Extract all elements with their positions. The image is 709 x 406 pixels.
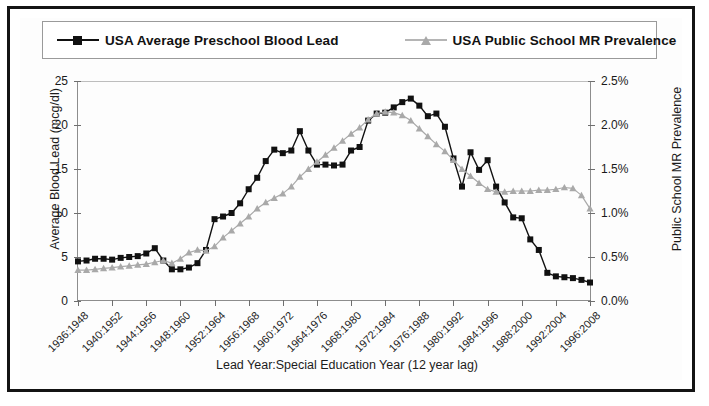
data-point-square — [297, 128, 303, 134]
data-point-triangle — [262, 199, 269, 205]
series-plot — [77, 81, 591, 301]
data-point-square — [433, 111, 439, 117]
y-axis-right-tick-label: 1.0% — [601, 206, 651, 220]
data-point-square — [135, 253, 141, 259]
data-point-square — [485, 157, 491, 163]
data-point-square — [109, 257, 115, 263]
data-point-square — [263, 158, 269, 164]
legend-swatch-blood-lead — [57, 34, 99, 46]
data-point-square — [331, 162, 337, 168]
data-point-triangle — [177, 255, 184, 261]
data-point-triangle — [254, 205, 261, 211]
y-axis-right-title: Public School MR Prevalence — [670, 79, 684, 259]
data-point-square — [561, 274, 567, 280]
data-point-square — [544, 270, 550, 276]
data-point-square — [578, 277, 584, 283]
legend-entry-blood-lead: USA Average Preschool Blood Lead — [57, 33, 339, 48]
y-axis-right-tick-label: 2.5% — [601, 74, 651, 88]
y-axis-right-tick-label: 2.0% — [601, 118, 651, 132]
y-axis-right-tick-label: 1.5% — [601, 162, 651, 176]
data-point-square — [169, 266, 175, 272]
square-marker-icon — [73, 36, 82, 45]
data-point-square — [408, 96, 414, 102]
data-point-square — [459, 184, 465, 190]
data-point-square — [118, 255, 124, 261]
data-point-square — [322, 162, 328, 168]
data-point-square — [271, 147, 277, 153]
y-axis-left-tick-label: 15 — [22, 162, 68, 176]
legend-label-mr-prevalence: USA Public School MR Prevalence — [453, 33, 677, 48]
y-axis-left-tick-label: 0 — [22, 294, 68, 308]
chart-figure: USA Average Preschool Blood Lead USA Pub… — [0, 0, 709, 406]
data-point-square — [92, 256, 98, 262]
data-point-square — [246, 186, 252, 192]
data-point-square — [186, 265, 192, 271]
data-point-square — [348, 148, 354, 154]
y-axis-right-tick-label: 0.0% — [601, 294, 651, 308]
legend-label-blood-lead: USA Average Preschool Blood Lead — [105, 33, 339, 48]
data-point-square — [194, 260, 200, 266]
data-point-triangle — [484, 186, 491, 192]
data-point-square — [510, 214, 516, 220]
triangle-marker-icon — [421, 36, 431, 45]
data-point-square — [177, 266, 183, 272]
data-point-triangle — [347, 130, 354, 136]
data-point-square — [587, 280, 593, 286]
data-point-square — [468, 149, 474, 155]
data-point-square — [416, 103, 422, 109]
data-point-square — [399, 99, 405, 105]
data-point-square — [220, 214, 226, 220]
data-point-square — [476, 167, 482, 173]
data-point-square — [536, 247, 542, 253]
data-point-square — [442, 124, 448, 130]
data-point-triangle — [271, 194, 278, 200]
data-point-square — [101, 256, 107, 262]
data-point-triangle — [194, 246, 201, 252]
y-axis-left-tick-label: 25 — [22, 74, 68, 88]
legend-swatch-mr-prevalence — [405, 34, 447, 46]
y-axis-left-tick-label: 20 — [22, 118, 68, 132]
data-point-square — [229, 210, 235, 216]
data-point-square — [254, 175, 260, 181]
data-point-square — [84, 258, 90, 264]
data-point-triangle — [586, 205, 593, 211]
data-point-square — [152, 245, 158, 251]
data-point-square — [126, 254, 132, 260]
y-axis-right-tick-label: 0.5% — [601, 250, 651, 264]
data-point-square — [280, 150, 286, 156]
x-axis-title: Lead Year:Special Education Year (12 yea… — [22, 358, 672, 372]
data-point-square — [357, 144, 363, 150]
legend-entry-mr-prevalence: USA Public School MR Prevalence — [405, 33, 677, 48]
chart-legend: USA Average Preschool Blood Lead USA Pub… — [42, 21, 657, 59]
data-point-triangle — [407, 117, 414, 123]
data-point-square — [502, 199, 508, 205]
plot-wrapper: Average Blood Lead (mcg/dl) Public Schoo… — [22, 66, 672, 386]
data-point-square — [527, 236, 533, 242]
data-point-triangle — [561, 184, 568, 190]
data-point-square — [425, 113, 431, 119]
data-point-square — [519, 215, 525, 221]
data-point-square — [340, 162, 346, 168]
data-point-square — [570, 275, 576, 281]
data-point-square — [553, 273, 559, 279]
data-point-square — [212, 216, 218, 222]
y-axis-left-tick-label: 10 — [22, 206, 68, 220]
data-point-square — [75, 258, 81, 264]
y-axis-left-tick-label: 5 — [22, 250, 68, 264]
data-point-square — [237, 200, 243, 206]
data-point-square — [143, 250, 149, 256]
data-point-square — [288, 148, 294, 154]
data-point-square — [305, 148, 311, 154]
